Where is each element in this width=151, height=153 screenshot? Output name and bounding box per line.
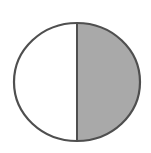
fraction-circle-diagram — [0, 0, 151, 153]
unshaded-half-left — [14, 23, 77, 141]
shaded-half-right — [77, 23, 140, 141]
